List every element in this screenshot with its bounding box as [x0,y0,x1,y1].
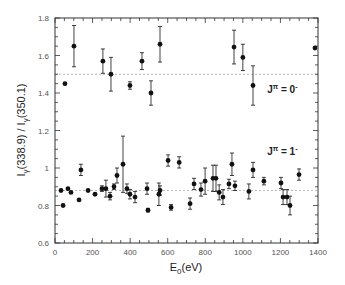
data-point [246,189,251,194]
y-tick-label: 0.6 [38,239,50,248]
data-point [61,203,66,208]
data-point [72,44,77,49]
series-annotation: Jπ = 0- [267,83,298,95]
data-point [230,162,235,167]
data-point [158,188,163,193]
x-axis-title: E0(eV) [170,261,203,276]
data-point [66,186,71,191]
data-point [128,192,133,197]
data-point [133,195,138,200]
data-point [177,160,182,165]
data-point [121,162,126,167]
data-point [93,192,98,197]
y-tick-label: 0.8 [38,202,50,211]
plot-frame [55,18,318,243]
data-point [192,182,197,187]
y-tick-label: 1 [45,164,50,173]
series-annotation: Jπ = 1- [267,145,298,157]
data-point [203,179,208,184]
data-point [145,186,150,191]
x-tick-label: 1400 [309,248,327,257]
x-tick-label: 1000 [234,248,252,257]
data-point [251,167,256,172]
y-axis-ticks: 0.60.811.21.41.61.8 [38,14,318,248]
y-axis-title: Iγ(338.9) / Iγ(350.1) [15,84,30,177]
annotations: Jπ = 0-Jπ = 1- [267,83,298,157]
data-point [166,158,171,163]
x-tick-label: 400 [123,248,137,257]
data-point [199,187,204,192]
data-point [128,83,133,88]
data-point [188,201,193,206]
y-tick-label: 1.8 [38,14,50,23]
scatter-chart: 0200400600800100012001400 0.60.811.21.41… [0,0,345,285]
data-point [251,83,256,88]
series [59,136,302,215]
data-point [108,194,113,199]
y-tick-label: 1.2 [38,127,50,136]
data-point [59,188,64,193]
data-point [112,184,117,189]
x-tick-label: 600 [161,248,175,257]
data-point [149,91,154,96]
data-point [109,72,114,77]
x-tick-label: 0 [53,248,58,257]
data-point [232,45,237,50]
data-point [285,195,290,200]
data-point [233,183,238,188]
data-point [146,208,151,213]
x-tick-label: 800 [199,248,213,257]
data-point [221,195,226,200]
y-tick-label: 1.4 [38,89,50,98]
data-point [313,46,318,51]
data-point [69,190,74,195]
x-tick-label: 1200 [272,248,290,257]
data-point [227,182,232,187]
y-tick-label: 1.6 [38,52,50,61]
data-point [104,186,109,191]
data-point [288,203,293,208]
data-point [63,81,68,86]
x-tick-label: 200 [86,248,100,257]
data-point [79,167,84,172]
data-point [214,176,219,181]
data-point [217,190,222,195]
data-point [125,186,130,191]
x-axis-ticks: 0200400600800100012001400 [53,18,328,257]
data-point [115,173,120,178]
data-point [261,179,266,184]
data-point [297,172,302,177]
data-points [59,26,318,215]
data-point [86,188,91,193]
data-point [158,42,163,47]
data-point [279,181,284,186]
data-point [169,205,174,210]
data-point [101,59,106,64]
data-point [77,197,82,202]
data-point [240,55,245,60]
data-point [140,59,145,64]
